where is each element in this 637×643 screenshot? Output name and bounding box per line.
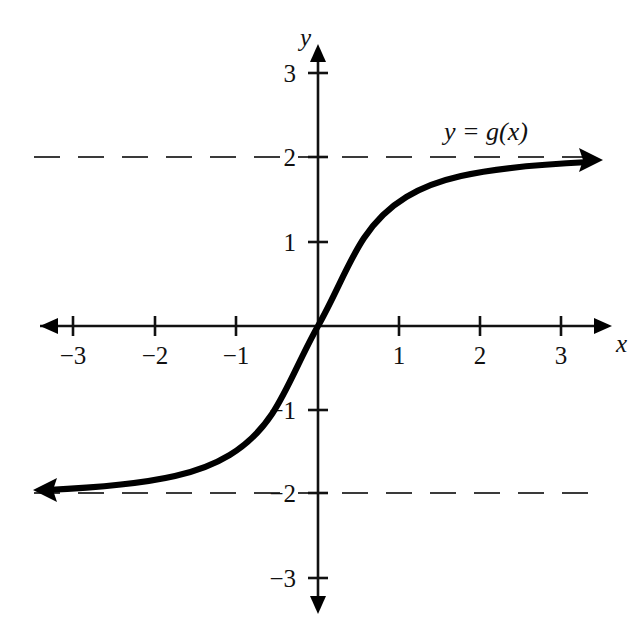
- x-tick-label--3: −3: [60, 342, 87, 369]
- x-tick-label-2: 2: [474, 342, 487, 369]
- y-tick-label-1: 1: [284, 229, 297, 256]
- y-tick-label-2: 2: [284, 144, 297, 171]
- x-tick-label-1: 1: [393, 342, 406, 369]
- y-tick-label--2: −2: [269, 480, 296, 507]
- y-tick-label--3: −3: [269, 565, 296, 592]
- y-axis-label: y: [297, 24, 312, 51]
- y-axis-down-arrow-icon: [310, 596, 326, 614]
- x-axis-left-arrow-icon: [40, 318, 58, 334]
- x-tick-label-3: 3: [555, 342, 568, 369]
- function-graph-svg: −3 −2 −1 1 2 3 3 2 1 −1 −2 −3 x y y = g(…: [0, 0, 637, 643]
- x-axis-label: x: [615, 330, 627, 357]
- graph-figure: −3 −2 −1 1 2 3 3 2 1 −1 −2 −3 x y y = g(…: [0, 0, 637, 643]
- x-tick-label--1: −1: [223, 342, 250, 369]
- y-tick-label-3: 3: [284, 60, 297, 87]
- function-label: y = g(x): [441, 117, 528, 146]
- x-tick-label--2: −2: [142, 342, 169, 369]
- y-axis-up-arrow-icon: [310, 44, 326, 62]
- x-axis-right-arrow-icon: [594, 318, 612, 334]
